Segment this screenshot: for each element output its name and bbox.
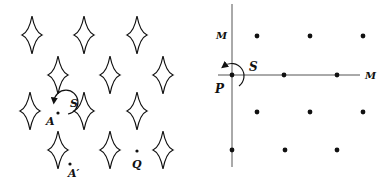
diamond-motifs bbox=[20, 16, 173, 169]
label-Q: Q bbox=[132, 158, 142, 171]
lattice-point bbox=[335, 73, 340, 78]
lattice-point bbox=[308, 34, 313, 39]
diamond-motif bbox=[74, 16, 94, 54]
diamond-motif bbox=[100, 56, 120, 94]
point-A bbox=[56, 111, 59, 114]
label-S-left: S bbox=[70, 97, 78, 110]
lattice-point bbox=[255, 34, 260, 39]
diamond-motif bbox=[153, 131, 173, 169]
lattice-point bbox=[283, 148, 288, 153]
lattice-points bbox=[230, 34, 366, 153]
diamond-motif bbox=[48, 56, 68, 94]
lattice-point bbox=[308, 110, 313, 115]
left-pattern-panel: S A A′ Q bbox=[20, 16, 173, 180]
lattice-point bbox=[282, 73, 287, 78]
lattice-point bbox=[361, 34, 366, 39]
symmetry-diagram: S A A′ Q S P M M bbox=[0, 0, 390, 189]
lattice-point bbox=[230, 148, 235, 153]
lattice-point bbox=[335, 148, 340, 153]
lattice-point bbox=[230, 73, 235, 78]
label-S-right: S bbox=[249, 60, 258, 74]
lattice-point bbox=[255, 110, 260, 115]
diamond-motif bbox=[127, 16, 147, 54]
diamond-motif bbox=[153, 56, 173, 94]
diamond-motif bbox=[127, 92, 147, 130]
label-M-horizontal: M bbox=[364, 70, 377, 81]
label-A: A bbox=[45, 115, 55, 128]
label-M-vertical: M bbox=[215, 30, 228, 41]
label-P: P bbox=[214, 82, 225, 96]
lattice-point bbox=[361, 110, 366, 115]
point-Q bbox=[135, 149, 138, 152]
diamond-motif bbox=[48, 131, 68, 169]
diamond-motif bbox=[22, 16, 42, 54]
diamond-motif bbox=[20, 92, 40, 130]
point-A-prime bbox=[68, 162, 71, 165]
diamond-motif bbox=[100, 131, 120, 169]
label-A-prime: A′ bbox=[67, 167, 80, 180]
right-lattice-panel: S P M M bbox=[214, 4, 377, 167]
